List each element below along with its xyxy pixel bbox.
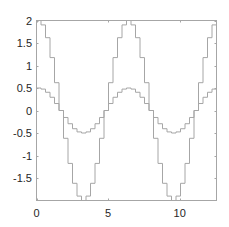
y-tick-label: 0.5	[17, 82, 32, 94]
x-tick-label: 10	[174, 207, 186, 219]
plot-lines	[37, 21, 217, 201]
y-tick-label: -1.5	[13, 172, 32, 184]
y-tick-label: 1	[26, 60, 32, 72]
y-tick-label: 2	[26, 15, 32, 27]
y-tick-label: -1	[22, 150, 32, 162]
y-axis-tick-labels: 21.510.50-0.5-1-1.5	[13, 15, 32, 185]
y-tick-label: -0.5	[13, 127, 32, 139]
stairs-chart: 0510 21.510.50-0.5-1-1.5	[0, 0, 229, 227]
x-tick-label: 5	[105, 207, 111, 219]
x-tick-label: 0	[33, 207, 39, 219]
y-tick-label: 1.5	[17, 37, 32, 49]
y-tick-label: 0	[26, 105, 32, 117]
x-axis-tick-labels: 0510	[33, 207, 185, 219]
